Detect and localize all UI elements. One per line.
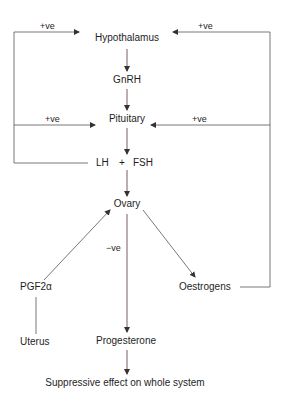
node-uterus: Uterus: [20, 336, 49, 348]
label-positive-hypothalamus-left: +ve: [40, 20, 55, 32]
arrow-pgf2a-ovary: [44, 210, 110, 280]
node-fsh: FSH: [133, 157, 153, 169]
node-pituitary: Pituitary: [109, 113, 145, 125]
node-lh: LH: [96, 157, 109, 169]
node-hypothalamus: Hypothalamus: [95, 32, 159, 44]
node-ovary: Ovary: [114, 198, 141, 210]
label-positive-pituitary-right: +ve: [192, 113, 207, 125]
feedback-line-right: [173, 32, 270, 287]
node-oestrogens: Oestrogens: [179, 281, 231, 293]
node-suppressive-effect: Suppressive effect on whole system: [45, 377, 204, 389]
feedback-line-left: [14, 32, 88, 163]
plus-sign: +: [119, 157, 125, 169]
label-positive-hypothalamus-right: +ve: [198, 20, 213, 32]
label-negative: −ve: [106, 242, 121, 254]
label-positive-pituitary-left: +ve: [45, 113, 60, 125]
node-progesterone: Progesterone: [96, 335, 156, 347]
arrow-ovary-oestrogens: [143, 210, 195, 277]
node-gnrh: GnRH: [113, 74, 141, 86]
node-pgf2a: PGF2α: [20, 281, 52, 293]
